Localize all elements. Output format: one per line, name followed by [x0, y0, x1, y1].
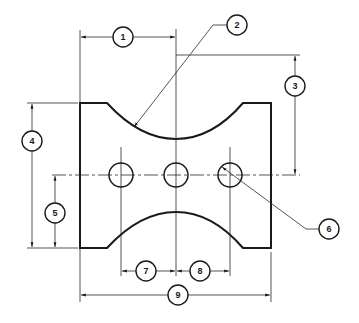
- dimension-2: 2: [134, 15, 247, 127]
- balloon-3-label: 3: [292, 81, 297, 91]
- balloon-5-label: 5: [52, 208, 57, 218]
- dimension-6: 6: [222, 167, 339, 239]
- dimension-7: 7: [122, 261, 175, 281]
- dimension-3: 3: [285, 56, 305, 174]
- balloon-7-label: 7: [143, 266, 148, 276]
- extension-lines: [27, 30, 300, 302]
- center-lines: [52, 29, 300, 276]
- technical-drawing: 1 2 3 4 5 6 7: [0, 0, 359, 323]
- balloon-9-label: 9: [175, 290, 180, 300]
- dimension-5: 5: [45, 176, 65, 247]
- dimension-1: 1: [81, 27, 175, 47]
- balloon-8-label: 8: [197, 266, 202, 276]
- dimension-4: 4: [22, 104, 42, 247]
- balloon-1-label: 1: [120, 32, 125, 42]
- balloon-4-label: 4: [29, 136, 34, 146]
- balloon-6-label: 6: [326, 224, 331, 234]
- dimension-9: 9: [81, 285, 270, 305]
- balloon-2-label: 2: [234, 20, 239, 30]
- dimension-8: 8: [177, 261, 229, 281]
